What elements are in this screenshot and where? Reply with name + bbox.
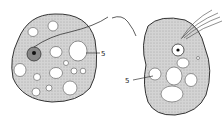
- flagellum: [112, 17, 136, 36]
- diagram-canvas: 5 5: [0, 0, 224, 132]
- left-cell: 5: [12, 14, 108, 102]
- label-5-right: 5: [125, 77, 129, 85]
- vacuole-labeled: [69, 41, 87, 61]
- right-cell: 5: [112, 10, 222, 115]
- label-5-left: 5: [101, 50, 105, 58]
